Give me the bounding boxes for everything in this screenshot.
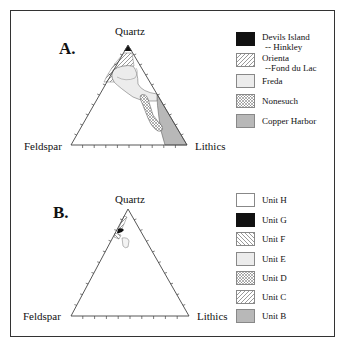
legend-sublabel: -- Hinkley — [262, 42, 310, 52]
legend-label: Unit F — [262, 234, 285, 244]
legend-sublabel: --Fond du Lac — [262, 63, 317, 73]
swatch-gray — [236, 309, 255, 323]
panel-a-feldspar-label: Feldspar — [24, 140, 62, 152]
legend-label: Devils Island — [262, 32, 310, 42]
swatch-solid-black — [236, 213, 255, 227]
legend-unit-b: Unit B — [236, 309, 286, 323]
legend-unit-h: Unit H — [236, 193, 287, 207]
legend-devils-island: Devils Island-- Hinkley — [236, 32, 310, 52]
legend-label: Unit H — [262, 195, 287, 205]
panel-a-label: A. — [59, 39, 76, 59]
legend-label: Unit G — [262, 215, 287, 225]
swatch-crosshatch — [236, 94, 255, 108]
panel-b-feldspar-label: Feldspar — [23, 310, 61, 322]
panel-b-quartz-label: Quartz — [115, 193, 145, 205]
legend-label: Unit E — [262, 254, 286, 264]
panel-b-lithics-label: Lithics — [197, 310, 228, 322]
swatch-diagonal-hatch — [236, 290, 255, 304]
panel-a-quartz-label: Quartz — [115, 25, 145, 37]
panel-b-triangle — [71, 209, 189, 319]
unit-g-field — [117, 228, 124, 233]
legend-unit-f: Unit F — [236, 232, 285, 246]
legend-unit-c: Unit C — [236, 290, 286, 304]
legend-copper-harbor: Copper Harbor — [236, 114, 316, 128]
legend-unit-e: Unit E — [236, 252, 286, 266]
legend-label: Nonesuch — [262, 96, 298, 106]
swatch-crosshatch — [236, 271, 255, 285]
legend-label: Unit B — [262, 311, 286, 321]
swatch-diagonal-hatch — [236, 53, 255, 67]
swatch-light-gray — [236, 74, 255, 88]
legend-label: Unit D — [262, 273, 287, 283]
panel-a-lithics-label: Lithics — [195, 140, 226, 152]
unit-e-field — [122, 238, 129, 248]
legend-label: Copper Harbor — [262, 116, 316, 126]
panel-b-label: B. — [53, 203, 69, 223]
swatch-white — [236, 193, 255, 207]
swatch-solid-black — [236, 32, 255, 46]
legend-nonesuch: Nonesuch — [236, 94, 298, 108]
legend-label: Freda — [262, 76, 283, 86]
legend-label: Unit C — [262, 292, 286, 302]
legend-unit-d: Unit D — [236, 271, 287, 285]
legend-unit-g: Unit G — [236, 213, 287, 227]
swatch-gray — [236, 114, 255, 128]
panel-a-triangle — [71, 45, 187, 148]
legend-orienta: Orienta--Fond du Lac — [236, 53, 317, 73]
swatch-back-diagonal-hatch — [236, 232, 255, 246]
swatch-light-gray — [236, 252, 255, 266]
legend-label: Orienta — [262, 53, 289, 63]
legend-freda: Freda — [236, 74, 283, 88]
